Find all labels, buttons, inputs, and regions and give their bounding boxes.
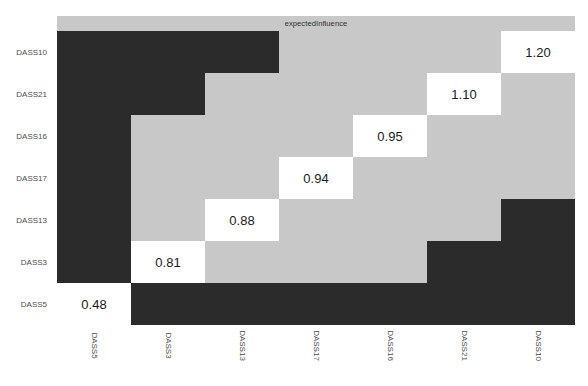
heatmap-cell <box>501 157 575 199</box>
cell-value-label: 1.10 <box>451 88 476 101</box>
cell-value-label: 0.95 <box>377 130 402 143</box>
heatmap-cell <box>57 199 131 241</box>
heatmap-panel: 1.201.100.950.940.880.810.48 <box>57 31 575 325</box>
heatmap-cell <box>427 283 501 325</box>
heatmap-cell <box>205 31 279 73</box>
x-axis-tick: DASS16 <box>353 325 427 383</box>
heatmap-cell <box>57 157 131 199</box>
x-axis-tick: DASS10 <box>501 325 575 383</box>
heatmap-cell <box>57 115 131 157</box>
y-axis-tick: DASS5 <box>0 283 51 325</box>
heatmap-cell <box>501 115 575 157</box>
heatmap-cell <box>205 283 279 325</box>
heatmap-cell <box>353 157 427 199</box>
heatmap-cell <box>353 199 427 241</box>
cell-value-label: 0.94 <box>303 172 328 185</box>
heatmap-cell <box>279 73 353 115</box>
heatmap-cell: 0.94 <box>279 157 353 199</box>
heatmap-cell <box>131 115 205 157</box>
heatmap-cell <box>57 31 131 73</box>
heatmap-cell <box>501 241 575 283</box>
heatmap-cell <box>205 241 279 283</box>
heatmap-cell <box>353 31 427 73</box>
facet-strip: expectedInfluence <box>57 16 575 31</box>
cell-value-label: 0.48 <box>81 298 106 311</box>
heatmap-cell <box>131 157 205 199</box>
y-axis-labels: DASS10DASS21DASS16DASS17DASS13DASS3DASS5 <box>0 31 51 325</box>
heatmap-cell: 0.48 <box>57 283 131 325</box>
heatmap-cell <box>427 199 501 241</box>
x-axis-tick: DASS5 <box>57 325 131 383</box>
x-axis-tick: DASS21 <box>427 325 501 383</box>
heatmap-cell <box>427 157 501 199</box>
heatmap-cell: 0.88 <box>205 199 279 241</box>
heatmap-cell <box>501 199 575 241</box>
x-axis-tick: DASS17 <box>279 325 353 383</box>
y-axis-tick: DASS21 <box>0 73 51 115</box>
heatmap-cell <box>57 73 131 115</box>
heatmap-cell <box>131 31 205 73</box>
heatmap-cell <box>279 241 353 283</box>
cell-value-label: 1.20 <box>525 46 550 59</box>
x-axis-tick-label: DASS3 <box>163 332 172 358</box>
x-axis-tick: DASS13 <box>205 325 279 383</box>
x-axis-tick-label: DASS5 <box>89 332 98 358</box>
y-axis-tick: DASS10 <box>0 31 51 73</box>
cell-value-label: 0.81 <box>155 256 180 269</box>
heatmap-cell <box>205 115 279 157</box>
heatmap-cell <box>427 241 501 283</box>
x-axis-tick-label: DASS17 <box>312 330 321 361</box>
x-axis-tick-label: DASS10 <box>534 330 543 361</box>
heatmap-cell <box>131 73 205 115</box>
y-axis-tick: DASS3 <box>0 241 51 283</box>
heatmap-cell <box>353 283 427 325</box>
heatmap-cell <box>279 31 353 73</box>
heatmap-cell <box>205 73 279 115</box>
heatmap-cell <box>501 73 575 115</box>
heatmap-cell: 0.95 <box>353 115 427 157</box>
heatmap-cell <box>501 283 575 325</box>
chart-title: expectedInfluence <box>285 20 348 28</box>
heatmap-cell <box>353 241 427 283</box>
heatmap-cell: 1.10 <box>427 73 501 115</box>
heatmap-cell <box>427 31 501 73</box>
heatmap-cell <box>131 199 205 241</box>
heatmap-cell <box>279 199 353 241</box>
x-axis-tick-label: DASS21 <box>460 330 469 361</box>
x-axis-labels: DASS5DASS3DASS13DASS17DASS16DASS21DASS10 <box>57 325 575 383</box>
y-axis-tick: DASS13 <box>0 199 51 241</box>
x-axis-tick: DASS3 <box>131 325 205 383</box>
heatmap-cell: 1.20 <box>501 31 575 73</box>
expected-influence-heatmap: expectedInfluence DASS10DASS21DASS16DASS… <box>0 0 588 386</box>
heatmap-cell <box>353 73 427 115</box>
x-axis-tick-label: DASS13 <box>238 330 247 361</box>
heatmap-cell <box>279 115 353 157</box>
heatmap-cell: 0.81 <box>131 241 205 283</box>
heatmap-cell <box>427 115 501 157</box>
y-axis-tick: DASS16 <box>0 115 51 157</box>
heatmap-cell <box>279 283 353 325</box>
heatmap-cell <box>131 283 205 325</box>
x-axis-tick-label: DASS16 <box>386 330 395 361</box>
cell-value-label: 0.88 <box>229 214 254 227</box>
heatmap-cell <box>205 157 279 199</box>
heatmap-cell <box>57 241 131 283</box>
y-axis-tick: DASS17 <box>0 157 51 199</box>
